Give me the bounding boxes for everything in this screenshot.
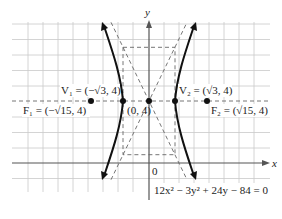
vertex-1-label: V₁ = (−√3, 4): [61, 84, 121, 97]
y-axis-label: y: [144, 6, 150, 18]
x-axis-label: x: [271, 157, 277, 169]
focus-2-point: [204, 98, 210, 104]
vertex-1-point: [120, 98, 126, 104]
focus-1-point: [88, 98, 94, 104]
x-axis-arrow-icon: [262, 160, 270, 166]
vertex-2-point: [172, 98, 178, 104]
origin-label: 0: [152, 165, 158, 177]
hyperbola-diagram: x y 0 V₁ = (−√3, 4) F₁ = (−√15, 4) (0, 4…: [0, 0, 282, 219]
equation-label: 12x² − 3y² + 24y − 84 = 0: [154, 184, 268, 196]
focus-2-label: F₂ = (√15, 4): [211, 104, 268, 117]
center-label: (0, 4): [127, 104, 151, 117]
focus-1-label: F₁ = (−√15, 4): [23, 104, 87, 117]
vertex-2-label: V₂ = (√3, 4): [179, 84, 233, 97]
axes: x y 0: [12, 6, 277, 200]
